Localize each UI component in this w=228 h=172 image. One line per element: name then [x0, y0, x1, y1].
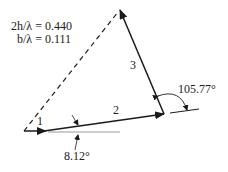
- vector-2-extension-line: [170, 109, 199, 113]
- param-b-lambda: b/λ = 0.111: [17, 33, 71, 45]
- angle-105-label: 105.77°: [178, 83, 216, 95]
- vector-2-label: 2: [113, 104, 119, 116]
- param-2h-lambda: 2h/λ = 0.440: [11, 20, 72, 32]
- angle-8-label: 8.12°: [64, 150, 90, 162]
- angle-8-arrow-bottom: [75, 135, 78, 150]
- vector-3-label: 3: [130, 59, 136, 71]
- vector-1-label: 1: [37, 115, 43, 127]
- vector-3-arrow: [120, 10, 164, 114]
- vector-2-arrow: [44, 114, 164, 131]
- angle-8-arrow-top: [72, 115, 78, 125]
- angle-105-arc: [158, 94, 187, 110]
